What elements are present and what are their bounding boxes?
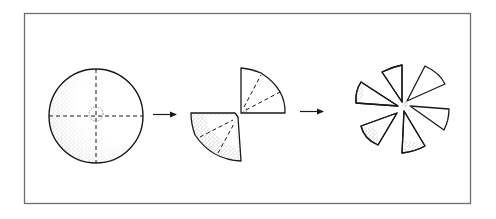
pinwheel-centre <box>402 101 408 107</box>
step-3-pinwheel <box>356 65 449 153</box>
step-1-disc <box>48 68 146 166</box>
quarter-piece-bottom-left <box>191 113 241 161</box>
pinwheel-blade-right <box>410 106 449 130</box>
diagram-canvas <box>0 0 496 219</box>
quarter-piece-top-right <box>241 68 285 113</box>
step-2-quarters <box>191 68 285 161</box>
pinwheel-blade-top-right <box>407 66 445 101</box>
